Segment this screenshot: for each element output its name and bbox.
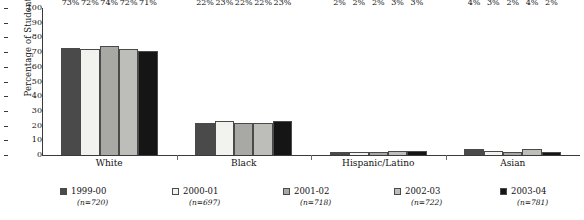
bars: 73%72%74%72%71% (61, 8, 158, 155)
plot-area: 1009080706050403020100 73%72%74%72%71%Wh… (42, 8, 580, 156)
bar-fill: 3% (484, 151, 503, 155)
bar-value-label: 22% (196, 0, 214, 8)
legend-sample-size: (n=720) (71, 197, 108, 208)
bars: 4%3%2%4%2% (464, 8, 561, 155)
legend-text: 2003-04(n=781) (511, 186, 548, 208)
bars: 22%23%22%22%23% (195, 8, 292, 155)
category-separator-tick (446, 155, 447, 160)
y-axis-tick-mark (4, 52, 8, 53)
legend-item-2001-02[interactable]: 2001-02(n=718) (283, 186, 331, 208)
bar-fill: 4% (464, 149, 483, 155)
bar-fill: 23% (273, 121, 292, 155)
legend-text: 1999-00(n=720) (71, 186, 108, 208)
bar-fill: 3% (388, 151, 407, 155)
category-label: Hispanic/Latino (330, 158, 427, 168)
bar-2002-03[interactable]: 22% (253, 8, 272, 155)
legend-item-2000-01[interactable]: 2000-01(n=697) (172, 186, 220, 208)
bar-value-label: 3% (411, 0, 424, 8)
bar-2003-04[interactable]: 71% (138, 8, 157, 155)
bar-fill: 71% (138, 51, 157, 155)
bar-value-label: 23% (274, 0, 292, 8)
bar-2001-02[interactable]: 2% (503, 8, 522, 155)
legend-swatch-icon (394, 188, 401, 195)
legend-year-label: 2002-03 (405, 186, 442, 197)
bar-1999-00[interactable]: 73% (61, 8, 80, 155)
bar-fill: 74% (100, 46, 119, 155)
bar-1999-00[interactable]: 22% (195, 8, 214, 155)
y-axis-tick-label: 20 (8, 121, 42, 131)
bar-value-label: 22% (254, 0, 272, 8)
bar-value-label: 4% (468, 0, 481, 8)
bar-1999-00[interactable]: 4% (464, 8, 483, 155)
bar-group-hispanic-latino: 2%2%2%3%3%Hispanic/Latino (330, 8, 427, 155)
bar-2002-03[interactable]: 3% (388, 8, 407, 155)
bar-fill: 72% (119, 49, 138, 155)
bar-fill: 73% (61, 48, 80, 155)
bar-fill: 4% (522, 149, 541, 155)
bar-1999-00[interactable]: 2% (330, 8, 349, 155)
bar-2000-01[interactable]: 3% (484, 8, 503, 155)
bar-fill: 3% (407, 151, 426, 155)
category-separator-tick (177, 155, 178, 160)
bar-group-asian: 4%3%2%4%2%Asian (464, 8, 561, 155)
bar-value-label: 72% (81, 0, 99, 8)
bar-fill: 22% (253, 123, 272, 155)
legend-year-label: 1999-00 (71, 186, 108, 197)
category-label: White (61, 158, 158, 168)
bar-2002-03[interactable]: 72% (119, 8, 138, 155)
y-axis-tick-mark (4, 37, 8, 38)
bar-fill: 2% (349, 152, 368, 155)
y-axis-tick-mark (4, 96, 8, 97)
legend-swatch-icon (60, 188, 67, 195)
legend-sample-size: (n=697) (183, 197, 220, 208)
bar-value-label: 74% (100, 0, 118, 8)
bar-2000-01[interactable]: 72% (80, 8, 99, 155)
y-axis-tick-mark (4, 8, 8, 9)
bar-2003-04[interactable]: 23% (273, 8, 292, 155)
legend-item-2002-03[interactable]: 2002-03(n=722) (394, 186, 442, 208)
y-axis-tick-label: 100 (8, 3, 42, 13)
bar-fill: 22% (234, 123, 253, 155)
y-axis-tick-label: 90 (8, 18, 42, 28)
y-axis-tick-mark (4, 82, 8, 83)
y-axis-tick-label: 30 (8, 106, 42, 116)
legend-item-1999-00[interactable]: 1999-00(n=720) (60, 186, 108, 208)
bar-fill: 2% (369, 152, 388, 155)
bar-2003-04[interactable]: 2% (542, 8, 561, 155)
bar-value-label: 3% (391, 0, 404, 8)
legend-year-label: 2000-01 (183, 186, 220, 197)
bar-value-label: 3% (487, 0, 500, 8)
legend-text: 2002-03(n=722) (405, 186, 442, 208)
bar-2003-04[interactable]: 3% (407, 8, 426, 155)
legend-text: 2001-02(n=718) (294, 186, 331, 208)
bar-group-black: 22%23%22%22%23%Black (195, 8, 292, 155)
bar-chart: Percentage of Students 10090807060504030… (0, 0, 584, 220)
bar-value-label: 22% (235, 0, 253, 8)
bar-fill: 23% (215, 121, 234, 155)
bar-2000-01[interactable]: 2% (349, 8, 368, 155)
bars: 2%2%2%3%3% (330, 8, 427, 155)
bar-group-white: 73%72%74%72%71%White (61, 8, 158, 155)
legend-sample-size: (n=718) (294, 197, 331, 208)
legend-year-label: 2001-02 (294, 186, 331, 197)
legend-item-2003-04[interactable]: 2003-04(n=781) (500, 186, 548, 208)
bar-2001-02[interactable]: 22% (234, 8, 253, 155)
chart-legend: 1999-00(n=720)2000-01(n=697)2001-02(n=71… (0, 186, 584, 218)
bar-fill: 2% (542, 152, 561, 155)
bar-fill: 2% (330, 152, 349, 155)
y-axis-tick-label: 0 (8, 150, 42, 160)
y-axis-tick-label: 60 (8, 62, 42, 72)
bar-value-label: 2% (353, 0, 366, 8)
y-axis-tick-label: 10 (8, 135, 42, 145)
bar-2001-02[interactable]: 2% (369, 8, 388, 155)
category-separator-tick (311, 155, 312, 160)
y-axis-line (42, 8, 43, 156)
bar-value-label: 2% (333, 0, 346, 8)
bar-value-label: 2% (545, 0, 558, 8)
y-axis-tick-label: 40 (8, 91, 42, 101)
bar-2000-01[interactable]: 23% (215, 8, 234, 155)
bar-2002-03[interactable]: 4% (522, 8, 541, 155)
y-axis-tick-mark (4, 155, 8, 156)
bar-2001-02[interactable]: 74% (100, 8, 119, 155)
bar-fill: 72% (80, 49, 99, 155)
